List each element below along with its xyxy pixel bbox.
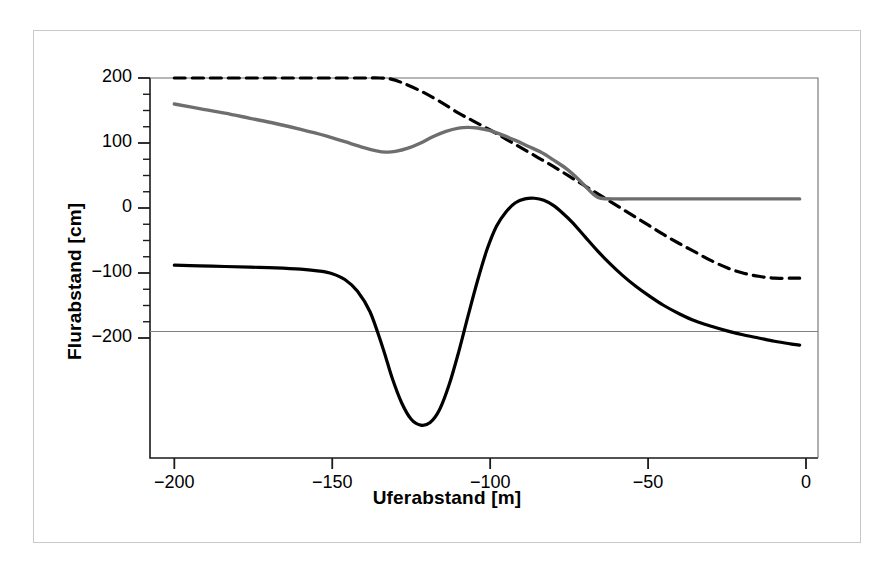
y-tick-label: −200 xyxy=(62,326,132,347)
series-gray-solid xyxy=(174,104,799,199)
x-tick-label: −50 xyxy=(608,472,688,493)
y-tick-label: 100 xyxy=(62,131,132,152)
x-tick-label: 0 xyxy=(766,472,846,493)
y-tick-label: 0 xyxy=(62,196,132,217)
figure-canvas: Flurabstand [cm] Uferabstand [m] 2001000… xyxy=(0,0,894,567)
x-tick-label: −150 xyxy=(292,472,372,493)
series-black-solid xyxy=(174,198,799,425)
y-tick-label: 200 xyxy=(62,66,132,87)
x-tick-label: −100 xyxy=(450,472,530,493)
x-tick-label: −200 xyxy=(134,472,214,493)
y-tick-label: −100 xyxy=(62,261,132,282)
